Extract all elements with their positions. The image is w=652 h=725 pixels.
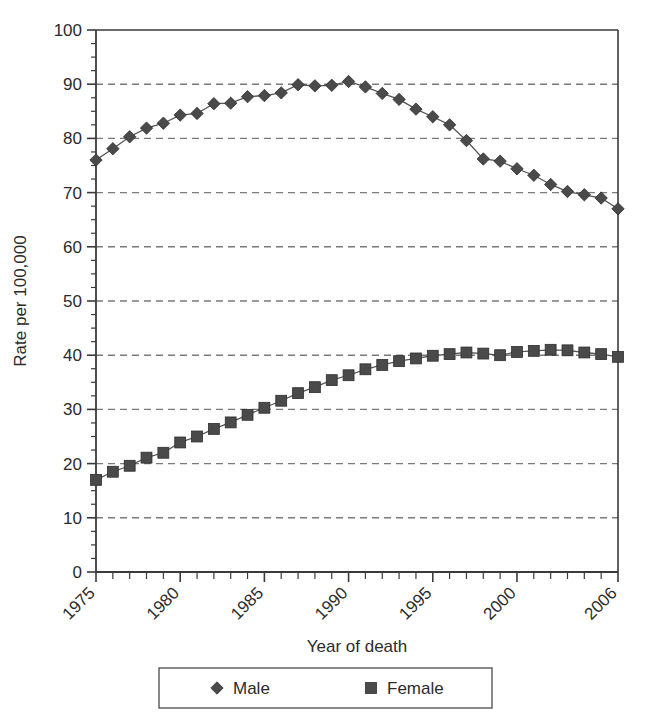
data-point-marker <box>258 89 270 101</box>
data-point-marker <box>175 437 186 448</box>
data-point-marker <box>595 192 607 204</box>
x-tick-label: 1980 <box>143 583 183 623</box>
data-point-marker <box>562 345 573 356</box>
data-point-marker <box>578 189 590 201</box>
data-point-marker <box>241 90 253 102</box>
x-tick-label: 1995 <box>395 583 435 623</box>
data-point-marker <box>326 375 337 386</box>
data-point-marker <box>377 360 388 371</box>
y-axis-tick-labels: 0102030405060708090100 <box>54 21 82 582</box>
y-tick-label: 100 <box>54 21 82 40</box>
data-point-marker <box>461 347 472 358</box>
data-point-marker <box>292 79 304 91</box>
data-point-marker <box>191 107 203 119</box>
y-tick-label: 50 <box>63 292 82 311</box>
legend-item-label: Female <box>387 679 444 698</box>
x-tick-label: 2006 <box>581 583 621 623</box>
data-point-marker <box>326 79 338 91</box>
data-point-marker <box>613 351 624 362</box>
data-point-marker <box>444 349 455 360</box>
y-axis-title: Rate per 100,000 <box>11 235 30 366</box>
data-point-marker <box>495 350 506 361</box>
data-point-marker <box>427 350 438 361</box>
data-point-marker <box>512 346 523 357</box>
data-point-marker <box>494 155 506 167</box>
series-male <box>90 75 624 215</box>
chart-figure: 0102030405060708090100 19751980198519901… <box>0 0 652 725</box>
grid-lines <box>96 84 618 518</box>
y-axis-ticks <box>87 30 96 572</box>
x-axis-ticks <box>96 572 618 582</box>
x-axis-title: Year of death <box>307 637 408 656</box>
data-point-marker <box>359 81 371 93</box>
data-point-marker <box>410 103 422 115</box>
data-point-marker <box>579 347 590 358</box>
chart-legend: MaleFemale <box>159 668 492 708</box>
y-tick-label: 80 <box>63 129 82 148</box>
x-axis-title-text: Year of death <box>307 637 408 656</box>
data-point-marker <box>124 460 135 471</box>
data-point-marker <box>309 80 321 92</box>
data-point-marker <box>225 97 237 109</box>
data-point-marker <box>528 169 540 181</box>
data-point-marker <box>544 178 556 190</box>
data-point-marker <box>342 75 354 87</box>
x-tick-label: 2000 <box>480 583 520 623</box>
data-point-marker <box>394 356 405 367</box>
data-point-marker <box>478 348 489 359</box>
data-point-marker <box>140 122 152 134</box>
data-point-marker <box>158 447 169 458</box>
y-axis-title-text: Rate per 100,000 <box>11 235 30 366</box>
y-tick-label: 40 <box>63 346 82 365</box>
data-point-marker <box>107 142 119 154</box>
data-point-marker <box>427 111 439 123</box>
data-point-marker <box>107 466 118 477</box>
x-tick-label: 1990 <box>311 583 351 623</box>
data-point-marker <box>360 364 371 375</box>
data-point-marker <box>376 87 388 99</box>
y-tick-label: 10 <box>63 509 82 528</box>
data-point-marker <box>259 402 270 413</box>
y-tick-label: 90 <box>63 75 82 94</box>
data-point-marker <box>612 203 624 215</box>
data-point-marker <box>561 185 573 197</box>
line-chart-svg: 0102030405060708090100 19751980198519901… <box>0 0 652 725</box>
data-point-marker <box>596 349 607 360</box>
legend-item-label: Male <box>233 679 270 698</box>
data-point-marker <box>90 154 102 166</box>
data-point-marker <box>410 353 421 364</box>
y-tick-label: 60 <box>63 238 82 257</box>
data-point-marker <box>208 98 220 110</box>
data-point-marker <box>242 409 253 420</box>
x-axis-tick-labels: 1975198019851990199520002006 <box>59 583 621 623</box>
data-point-marker <box>192 431 203 442</box>
x-tick-label: 1975 <box>59 583 99 623</box>
data-point-marker <box>141 452 152 463</box>
y-tick-label: 30 <box>63 400 82 419</box>
data-point-marker <box>511 163 523 175</box>
data-point-marker <box>275 87 287 99</box>
y-tick-label: 70 <box>63 184 82 203</box>
data-point-marker <box>208 423 219 434</box>
y-tick-label: 20 <box>63 455 82 474</box>
y-tick-label: 0 <box>73 563 82 582</box>
data-point-marker <box>174 109 186 121</box>
data-point-marker <box>393 93 405 105</box>
data-point-marker <box>309 382 320 393</box>
data-point-marker <box>157 117 169 129</box>
data-point-marker <box>293 388 304 399</box>
data-point-marker <box>91 474 102 485</box>
data-point-marker <box>123 131 135 143</box>
data-point-marker <box>276 395 287 406</box>
series-line <box>96 350 618 480</box>
series-line <box>96 81 618 208</box>
data-point-marker <box>225 417 236 428</box>
data-point-marker <box>366 683 377 694</box>
data-point-marker <box>545 344 556 355</box>
data-point-marker <box>528 345 539 356</box>
data-point-marker <box>343 370 354 381</box>
x-tick-label: 1985 <box>227 583 267 623</box>
